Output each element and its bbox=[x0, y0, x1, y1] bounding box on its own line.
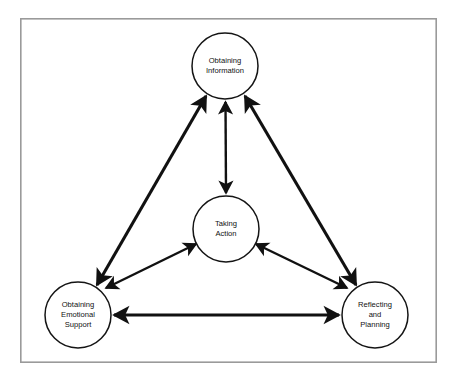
reflecting-and-planning-label-line-2: and bbox=[369, 310, 382, 319]
obtaining-information-label-line-1: Obtaining bbox=[209, 56, 242, 65]
reflecting-and-planning-label-line-1: Reflecting bbox=[358, 300, 392, 309]
connector-information-to-taking-action bbox=[226, 102, 227, 193]
obtaining-emotional-support-label-line-3: Support bbox=[65, 320, 93, 329]
taking-action-label-line-2: Action bbox=[215, 229, 236, 238]
obtaining-emotional-support-label-line-2: Emotional bbox=[61, 310, 95, 319]
diagram-canvas: Obtaining Information Taking Action Obta… bbox=[0, 0, 452, 384]
node-obtaining-emotional-support[interactable]: Obtaining Emotional Support bbox=[45, 282, 111, 348]
node-reflecting-and-planning[interactable]: Reflecting and Planning bbox=[342, 282, 408, 348]
obtaining-emotional-support-label-line-1: Obtaining bbox=[62, 300, 95, 309]
node-taking-action[interactable]: Taking Action bbox=[193, 196, 259, 262]
node-obtaining-information[interactable]: Obtaining Information bbox=[192, 33, 258, 99]
obtaining-information-label-line-2: Information bbox=[206, 66, 244, 75]
triangle-model-diagram: Obtaining Information Taking Action Obta… bbox=[0, 0, 452, 384]
taking-action-label-line-1: Taking bbox=[215, 219, 237, 228]
reflecting-and-planning-label-line-3: Planning bbox=[360, 320, 390, 329]
